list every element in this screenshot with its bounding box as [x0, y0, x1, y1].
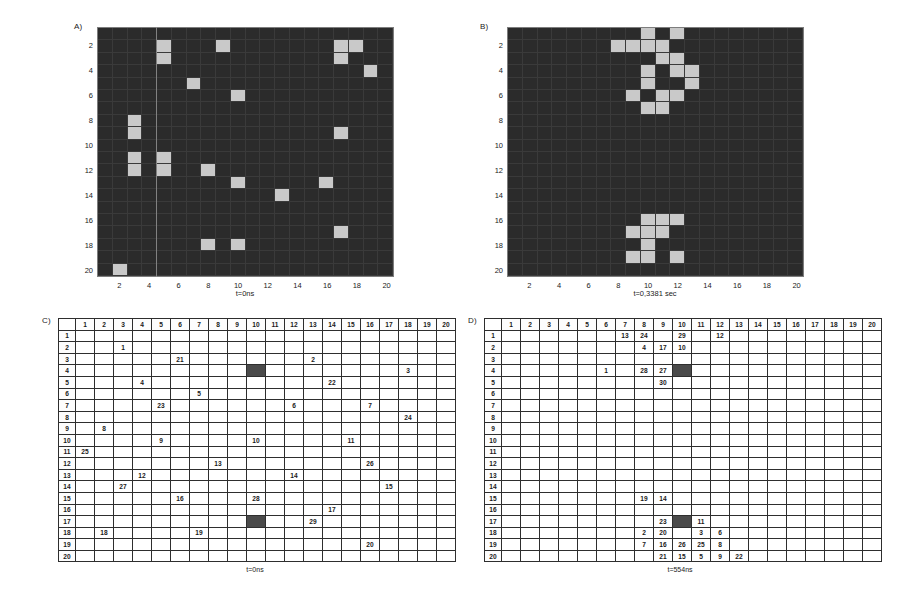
- table-cell: [863, 446, 882, 458]
- table-cell: [209, 388, 228, 400]
- table-cell: [380, 388, 399, 400]
- heatmap-cell: [246, 78, 261, 90]
- table-cell: 15: [673, 550, 692, 562]
- table-cell: [76, 550, 95, 562]
- table-cell: [399, 516, 418, 528]
- table-cell: [616, 550, 635, 562]
- heatmap-cell: [715, 202, 730, 214]
- table-cell: [768, 550, 787, 562]
- table-cell: 16: [654, 539, 673, 551]
- table-row-header: 1: [485, 330, 502, 342]
- heatmap-x-tick: 20: [788, 281, 806, 290]
- table-cell: [730, 504, 749, 516]
- table-cell: 21: [654, 550, 673, 562]
- table-cell: [749, 376, 768, 388]
- heatmap-cell: [508, 264, 523, 276]
- heatmap-cell: [334, 90, 349, 102]
- table-cell: [228, 458, 247, 470]
- heatmap-cell: [670, 140, 685, 152]
- table-cell: [578, 388, 597, 400]
- table-cell: [863, 342, 882, 354]
- table-cell: [711, 376, 730, 388]
- heatmap-cell: [275, 214, 290, 226]
- table-cell: [342, 446, 361, 458]
- heatmap-cell: [759, 152, 774, 164]
- heatmap-cell: [364, 251, 379, 263]
- table-column-header: 7: [616, 319, 635, 331]
- table-cell: [76, 539, 95, 551]
- table-cell: [540, 388, 559, 400]
- heatmap-cell: [98, 152, 113, 164]
- heatmap-cell: [538, 78, 553, 90]
- heatmap-cell: [275, 28, 290, 40]
- table-cell: [616, 411, 635, 423]
- table-cell: 17: [323, 504, 342, 516]
- heatmap-cell: [597, 177, 612, 189]
- table-cell: [806, 353, 825, 365]
- table-cell: [437, 434, 456, 446]
- heatmap-cell: [597, 264, 612, 276]
- heatmap-cell: [260, 202, 275, 214]
- table-cell: [844, 539, 863, 551]
- table-cell: [635, 353, 654, 365]
- heatmap-cell: [98, 53, 113, 65]
- heatmap-cell: [231, 264, 246, 276]
- heatmap-cell: [582, 140, 597, 152]
- table-cell: [266, 342, 285, 354]
- table-row-header: 5: [59, 376, 76, 388]
- table-cell: 25: [76, 446, 95, 458]
- table-cell: [285, 411, 304, 423]
- table-cell: [342, 411, 361, 423]
- heatmap-cell: [552, 264, 567, 276]
- heatmap-cell: [201, 226, 216, 238]
- table-cell: [597, 504, 616, 516]
- heatmap-cell: [305, 40, 320, 52]
- table-cell: [76, 376, 95, 388]
- heatmap-cell: [172, 115, 187, 127]
- heatmap-cell: [246, 251, 261, 263]
- table-cell: [825, 446, 844, 458]
- heatmap-cell: [98, 28, 113, 40]
- heatmap-cell: [113, 127, 128, 139]
- table-cell: [787, 550, 806, 562]
- heatmap-cell: [216, 102, 231, 114]
- table-cell: [171, 550, 190, 562]
- table-cell: [285, 423, 304, 435]
- heatmap-cell: [113, 189, 128, 201]
- heatmap-cell: [260, 214, 275, 226]
- table-cell: [654, 504, 673, 516]
- table-column-header: 3: [540, 319, 559, 331]
- heatmap-cell: [744, 28, 759, 40]
- table-cell: [323, 365, 342, 377]
- table-row-header: 15: [485, 492, 502, 504]
- table-cell: [825, 550, 844, 562]
- heatmap-cell: [275, 239, 290, 251]
- table-cell: [502, 434, 521, 446]
- table-row: 1822036: [485, 527, 882, 539]
- table-cell: [380, 400, 399, 412]
- table-cell: [540, 376, 559, 388]
- heatmap-cell: [552, 152, 567, 164]
- heatmap-cell: [349, 152, 364, 164]
- table-cell: [768, 446, 787, 458]
- heatmap-cell: [378, 164, 393, 176]
- heatmap-cell-active: [319, 177, 334, 189]
- table-cell: [597, 516, 616, 528]
- table-cell: [806, 469, 825, 481]
- table-cell: [285, 458, 304, 470]
- heatmap-cell: [113, 40, 128, 52]
- heatmap-cell: [305, 140, 320, 152]
- table-cell: [521, 550, 540, 562]
- heatmap-cell: [201, 140, 216, 152]
- table-cell: [190, 411, 209, 423]
- table-cell: [285, 481, 304, 493]
- table-cell: [673, 481, 692, 493]
- heatmap-cell: [538, 90, 553, 102]
- table-cell: [559, 458, 578, 470]
- table-column-header: 2: [95, 319, 114, 331]
- table-cell: [806, 411, 825, 423]
- heatmap-cell: [319, 164, 334, 176]
- heatmap-cell: [523, 189, 538, 201]
- table-cell: [502, 400, 521, 412]
- heatmap-cell: [744, 140, 759, 152]
